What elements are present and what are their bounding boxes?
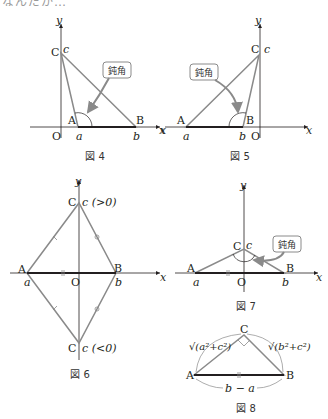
svg-text:B: B — [114, 262, 122, 275]
svg-text:x: x — [316, 271, 323, 284]
svg-text:a: a — [193, 276, 200, 289]
svg-text:C: C — [240, 323, 248, 336]
brace-ab-left — [196, 379, 223, 388]
figure-8: A B C √(a²+c²) √(b²+c²) b − a 図 8 — [185, 323, 311, 414]
svg-text:B: B — [246, 114, 254, 127]
svg-text:図 5: 図 5 — [230, 151, 250, 162]
svg-text:x: x — [160, 124, 167, 137]
svg-text:b: b — [239, 130, 246, 143]
svg-text:b − a: b − a — [225, 382, 255, 395]
svg-text:図 7: 図 7 — [236, 301, 256, 312]
svg-text:C: C — [51, 46, 59, 59]
svg-text:図 6: 図 6 — [70, 369, 90, 380]
svg-text:c: c — [63, 43, 69, 56]
svg-text:鈍角: 鈍角 — [108, 65, 126, 76]
svg-text:y: y — [254, 14, 262, 27]
figure-4: 鈍角 x y O A B C c a b 図 4 — [30, 14, 166, 162]
svg-text:b: b — [282, 276, 289, 289]
svg-text:y: y — [55, 14, 63, 27]
svg-text:A: A — [67, 114, 77, 127]
svg-text:図 8: 図 8 — [236, 403, 256, 414]
svg-text:a: a — [183, 130, 190, 143]
svg-text:√(b²+c²): √(b²+c²) — [268, 341, 311, 352]
svg-text:√(a²+c²): √(a²+c²) — [189, 341, 231, 352]
svg-text:C: C — [251, 43, 259, 56]
svg-text:C: C — [68, 342, 76, 355]
svg-text:O: O — [251, 130, 260, 143]
svg-text:O: O — [237, 276, 246, 289]
svg-text:y: y — [74, 175, 82, 188]
svg-text:O: O — [52, 130, 61, 143]
svg-text:A: A — [185, 369, 195, 382]
svg-text:x: x — [160, 271, 167, 284]
svg-text:y: y — [239, 179, 247, 192]
svg-text:b: b — [115, 276, 122, 289]
figure-7: 鈍角 x y O A B C c a b 図 7 — [175, 179, 323, 312]
svg-text:a: a — [24, 276, 31, 289]
svg-text:鈍角: 鈍角 — [195, 67, 213, 78]
svg-text:x: x — [306, 124, 313, 137]
svg-text:B: B — [286, 262, 294, 275]
svg-text:A: A — [176, 114, 186, 127]
brace-bc — [247, 334, 283, 372]
svg-text:図 4: 図 4 — [85, 151, 105, 162]
svg-text:A: A — [17, 263, 27, 276]
svg-text:O: O — [71, 276, 80, 289]
svg-text:b: b — [133, 130, 140, 143]
svg-text:鈍角: 鈍角 — [278, 239, 296, 250]
svg-text:A: A — [186, 262, 196, 275]
svg-text:B: B — [136, 114, 144, 127]
svg-text:c: c — [246, 239, 252, 252]
brace-ac — [196, 334, 241, 372]
svg-text:a: a — [76, 130, 83, 143]
callout-arrow — [254, 252, 284, 261]
svg-text:c (<0): c (<0) — [82, 342, 116, 355]
diagram-canvas: 鈍角 x y O A B C c a b 図 4 鈍角 x x y O A B … — [0, 0, 328, 419]
svg-text:c: c — [264, 43, 270, 56]
figure-5: 鈍角 x x y O A B C c a b 図 5 — [160, 14, 313, 162]
figure-6: x y O A B C c (>0) C c (<0) a b 図 6 — [10, 175, 167, 380]
brace-ab-right — [257, 379, 282, 388]
svg-text:B: B — [286, 369, 294, 382]
right-angle-mark — [238, 340, 250, 346]
svg-text:C: C — [68, 196, 76, 209]
svg-text:c (>0): c (>0) — [82, 196, 116, 209]
svg-text:C: C — [233, 240, 241, 253]
